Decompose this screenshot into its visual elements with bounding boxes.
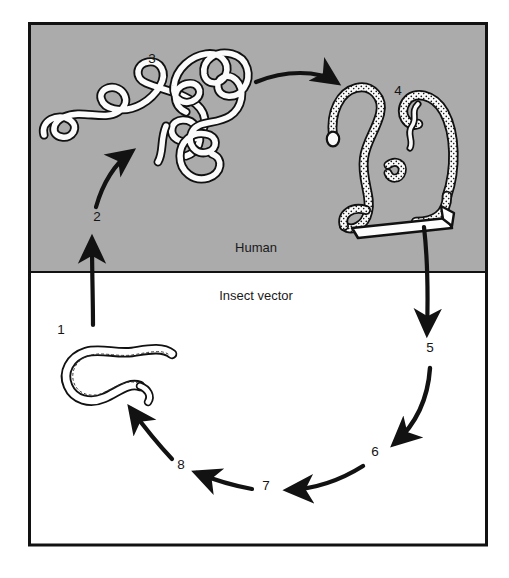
region-human-band [30,24,487,273]
stage-number-6: 6 [371,444,379,459]
region-label-insect-vector: Insect vector [219,288,293,303]
diagram-canvas: Human Insect vector 1 2 3 4 5 6 7 8 [0,0,509,578]
stage-number-3: 3 [148,51,156,66]
stage-number-5: 5 [426,340,434,355]
stage-number-1: 1 [57,322,65,337]
life-cycle-figure: Human Insect vector 1 2 3 4 5 6 7 8 [0,0,509,578]
region-label-human: Human [235,240,277,255]
stage-number-2: 2 [93,209,101,224]
stage-number-4: 4 [394,83,402,98]
stage-number-7: 7 [262,478,270,493]
stage-number-8: 8 [177,457,185,472]
arrow-1-to-2 [92,240,93,325]
